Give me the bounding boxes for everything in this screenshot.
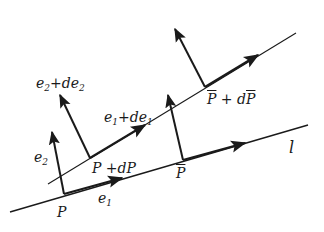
label-p: P — [57, 205, 66, 219]
label-p-dp: P +dP — [92, 161, 136, 175]
vector-e2-de2 — [60, 95, 90, 158]
vector-e2-bar — [168, 95, 183, 160]
vector-e2 — [52, 132, 64, 194]
vector-e2-bar-d — [175, 29, 205, 87]
label-e2: e2 — [34, 150, 48, 167]
label-e2-de2: e2+de2 — [36, 76, 85, 93]
diagram-canvas: e2+de2 e1+de1 e2 P +dP P e1 P P + dP l — [0, 0, 324, 232]
label-e1-de1: e1+de1 — [104, 110, 153, 127]
label-e1: e1 — [98, 191, 112, 208]
vector-e1-bar — [183, 143, 245, 160]
diagram-svg — [0, 0, 324, 232]
label-p-bar-dp-bar: P + dP — [207, 92, 255, 106]
label-p-bar: P — [176, 166, 185, 180]
vector-e1-de1 — [90, 125, 145, 158]
vector-e1 — [64, 178, 122, 194]
line-l — [10, 125, 308, 212]
vector-e1-bar-d — [205, 55, 258, 87]
label-line-l: l — [289, 140, 294, 156]
